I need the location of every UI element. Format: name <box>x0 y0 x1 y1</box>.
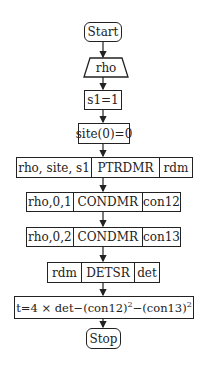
condmr2-args: rho,0,2 <box>27 228 73 246</box>
condmr1-proc: CONDMR <box>73 193 142 211</box>
input-label: rho <box>96 61 117 75</box>
formula-text: t=4 × det−(con12)2−(con13)2 <box>16 301 192 315</box>
condmr2-proc: CONDMR <box>73 228 142 246</box>
condmr1-args: rho,0,1 <box>27 193 73 211</box>
ptrdmr-out: rdm <box>159 158 192 177</box>
stop-terminal: Stop <box>86 328 121 349</box>
stop-label: Stop <box>90 332 118 346</box>
detsr-args: rdm <box>48 263 81 282</box>
input-node: rho <box>88 59 124 76</box>
detsr-proc: DETSR <box>81 263 134 282</box>
condmr2-out: con13 <box>142 228 180 246</box>
s1-label: s1=1 <box>87 93 118 107</box>
process-site: site(0)=0 <box>78 123 130 144</box>
site-label: site(0)=0 <box>76 127 133 141</box>
subroutine-condmr-2: rho,0,2 CONDMR con13 <box>26 227 181 247</box>
subroutine-condmr-1: rho,0,1 CONDMR con12 <box>26 192 181 212</box>
process-s1: s1=1 <box>84 90 122 110</box>
process-formula: t=4 × det−(con12)2−(con13)2 <box>14 296 194 319</box>
ptrdmr-proc: PTRDMR <box>91 158 159 177</box>
ptrdmr-args: rho, site, s1 <box>17 158 91 177</box>
subroutine-ptrdmr: rho, site, s1 PTRDMR rdm <box>16 157 193 178</box>
subroutine-detsr: rdm DETSR det <box>47 262 160 283</box>
detsr-out: det <box>134 263 159 282</box>
start-label: Start <box>88 25 119 39</box>
condmr1-out: con12 <box>142 193 180 211</box>
start-terminal: Start <box>84 22 122 42</box>
